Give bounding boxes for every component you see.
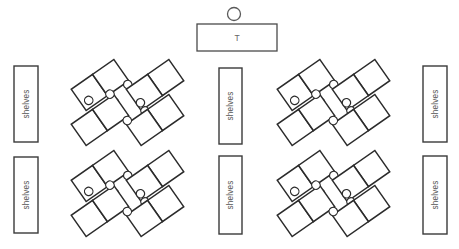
teacher-desk-label: T [234,33,239,43]
shelf-unit-right-top[interactable]: shelves [423,66,447,142]
shelf-label-right-bottom: shelves [431,180,440,209]
floor-plan-canvas: Tshelvesshelvesshelvesshelvesshelvesshel… [0,0,459,249]
teacher-area: T [197,8,277,52]
shelf-label-left-bottom: shelves [22,180,31,209]
shelf-unit-middle-bottom[interactable]: shelves [219,156,242,234]
teacher-circle-icon [228,8,241,21]
shelf-label-middle-bottom: shelves [226,180,235,209]
classroom-floor-plan: Tshelvesshelvesshelvesshelvesshelvesshel… [0,0,459,249]
shelf-unit-left-top[interactable]: shelves [14,66,38,142]
shelf-unit-left-bottom[interactable]: shelves [14,157,38,233]
shelf-unit-right-bottom[interactable]: shelves [423,156,447,234]
shelf-label-left-top: shelves [22,89,31,118]
shelf-label-right-top: shelves [431,89,440,118]
shelf-unit-middle-top[interactable]: shelves [219,68,242,144]
shelf-label-middle-top: shelves [226,91,235,120]
